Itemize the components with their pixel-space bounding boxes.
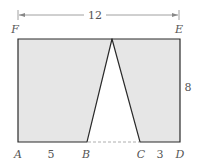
- ab-length-label: 5: [48, 148, 55, 161]
- point-label-a: A: [13, 148, 22, 161]
- width-label: 12: [88, 9, 102, 22]
- point-label-b: B: [81, 148, 90, 161]
- point-label-c: C: [137, 148, 146, 161]
- left-shaded-region: [18, 39, 112, 142]
- height-label: 8: [185, 81, 192, 94]
- right-shaded-region: [112, 39, 180, 142]
- point-label-e: E: [174, 23, 183, 36]
- cd-length-label: 3: [157, 148, 164, 161]
- geometry-diagram: 12 F E A B C D 5 3 8: [0, 0, 199, 165]
- point-label-d: D: [175, 148, 185, 161]
- point-label-f: F: [10, 23, 19, 36]
